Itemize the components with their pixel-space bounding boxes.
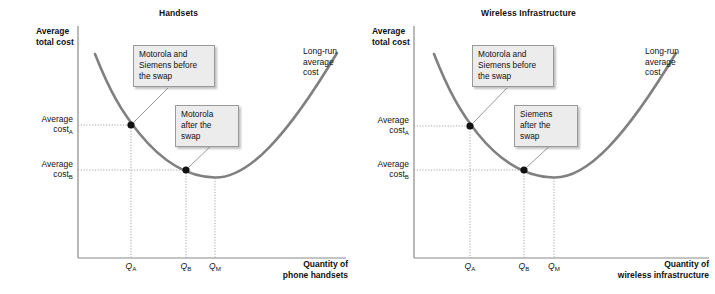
callout-after-swap[interactable]: Motorola after the swap: [175, 105, 239, 147]
y-tick-cost-a-line2: cost: [53, 124, 69, 134]
x-axis-title-line2: phone handsets: [283, 270, 348, 280]
x-tick-q-b: QB: [170, 261, 202, 274]
y-axis-title-line2: total cost: [372, 37, 410, 47]
y-tick-cost-b-subscript: B: [69, 173, 73, 180]
callout-before-swap[interactable]: Motorola and Siemens before the swap: [133, 45, 215, 87]
y-tick-cost-b-subscript: B: [405, 173, 409, 180]
x-tick-q-a-subscript: A: [471, 265, 475, 272]
y-tick-cost-a-line1: Average: [377, 115, 409, 125]
x-tick-q-a: QA: [454, 261, 486, 274]
curve-label-line3: cost: [303, 67, 319, 77]
y-axis-title: Average total cost: [372, 26, 410, 47]
y-tick-cost-b: Average costB: [13, 159, 73, 182]
x-tick-q-b-subscript: B: [187, 265, 191, 272]
x-tick-q-m-subscript: M: [555, 265, 560, 272]
y-tick-cost-b-line2: cost: [53, 169, 69, 179]
panel-handsets: Handsets Average total cost: [0, 0, 357, 294]
y-tick-cost-b: Average costB: [349, 159, 409, 182]
callout-after-swap[interactable]: Siemens after the swap: [514, 105, 578, 147]
point-q-a: [466, 122, 473, 129]
leader-line-before-swap: [473, 88, 507, 123]
long-run-average-cost-figure: Handsets Average total cost: [0, 0, 715, 294]
y-tick-cost-b-line1: Average: [377, 159, 409, 169]
y-tick-cost-a-line2: cost: [389, 125, 405, 135]
y-axis-title-line1: Average: [36, 26, 69, 36]
curve-label-line2: average: [303, 57, 334, 67]
x-axis-title: Quantity of phone handsets: [283, 259, 348, 280]
y-tick-cost-a-line1: Average: [41, 114, 73, 124]
curve-label-long-run-average-cost: Long-run average cost: [645, 46, 679, 78]
x-tick-q-m: QM: [538, 261, 570, 274]
curve-label-line1: Long-run: [645, 46, 679, 56]
curve-label-long-run-average-cost: Long-run average cost: [303, 46, 337, 78]
curve-label-line2: average: [645, 57, 676, 67]
point-q-b: [520, 166, 527, 173]
x-axis-title-line1: Quantity of: [664, 259, 709, 269]
x-tick-q-m: QM: [199, 261, 231, 274]
point-q-a: [127, 121, 134, 128]
x-tick-q-m-letter: Q: [548, 261, 555, 271]
panel-wireless-infrastructure: Wireless Infrastructure Average total co…: [357, 0, 714, 294]
point-q-b: [182, 166, 189, 173]
y-axis-title-line1: Average: [372, 26, 405, 36]
callout-before-swap[interactable]: Motorola and Siemens before the swap: [472, 45, 554, 87]
x-axis-title-line1: Quantity of: [303, 259, 348, 269]
x-tick-q-m-subscript: M: [216, 265, 221, 272]
x-tick-q-a: QA: [115, 261, 147, 274]
x-axis-title: Quantity of wireless infrastructure: [618, 259, 709, 280]
y-tick-cost-b-line2: cost: [389, 169, 405, 179]
y-tick-cost-a: Average costA: [349, 115, 409, 138]
x-tick-q-b-subscript: B: [525, 265, 529, 272]
leader-line-before-swap: [134, 88, 168, 122]
y-tick-cost-a: Average costA: [13, 114, 73, 137]
y-axis-title: Average total cost: [36, 26, 74, 47]
y-tick-cost-a-subscript: A: [405, 129, 409, 136]
x-tick-q-b: QB: [508, 261, 540, 274]
x-axis-title-line2: wireless infrastructure: [618, 270, 709, 280]
x-tick-q-m-letter: Q: [209, 261, 216, 271]
curve-label-line3: cost: [645, 67, 661, 77]
x-tick-q-a-subscript: A: [132, 265, 136, 272]
y-tick-cost-a-subscript: A: [69, 128, 73, 135]
y-axis-title-line2: total cost: [36, 37, 74, 47]
curve-label-line1: Long-run: [303, 46, 337, 56]
y-tick-cost-b-line1: Average: [41, 159, 73, 169]
